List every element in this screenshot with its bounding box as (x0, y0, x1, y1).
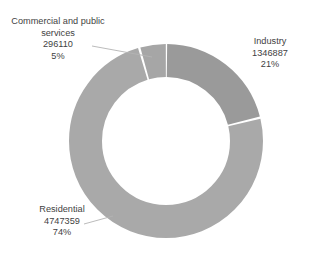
donut-chart: Commercial and public services 296110 5%… (0, 0, 313, 258)
donut-ring (86, 61, 247, 222)
slice-label-commercial-name: Commercial and public services (6, 16, 110, 39)
slice-label-residential-name: Residential (13, 204, 111, 216)
slice-label-industry-name: Industry (232, 36, 308, 48)
slice-label-residential-percent: 74% (13, 227, 111, 239)
slice-label-commercial: Commercial and public services 296110 5% (6, 16, 110, 62)
slice-label-commercial-percent: 5% (6, 51, 110, 63)
slice-label-residential-value: 4747359 (13, 216, 111, 228)
slice-label-commercial-value: 296110 (6, 39, 110, 51)
slice-label-industry-value: 1346887 (232, 48, 308, 60)
slice-label-residential: Residential 4747359 74% (13, 204, 111, 239)
slice-label-industry: Industry 1346887 21% (232, 36, 308, 71)
slice-label-industry-percent: 21% (232, 59, 308, 71)
